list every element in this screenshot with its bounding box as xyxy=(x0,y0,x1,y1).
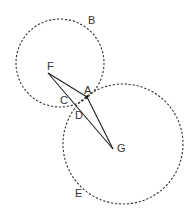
label-b: B xyxy=(88,14,95,26)
label-a: A xyxy=(84,84,92,96)
points-layer xyxy=(86,96,89,99)
label-f: F xyxy=(47,60,54,72)
labels-layer: B E F A C D G xyxy=(47,14,126,199)
circles-layer xyxy=(16,19,183,204)
label-g: G xyxy=(117,142,126,154)
label-c: C xyxy=(60,94,68,106)
label-d: D xyxy=(75,109,83,121)
label-e: E xyxy=(75,187,82,199)
point-a xyxy=(86,96,89,99)
geometry-diagram: B E F A C D G xyxy=(0,0,196,217)
